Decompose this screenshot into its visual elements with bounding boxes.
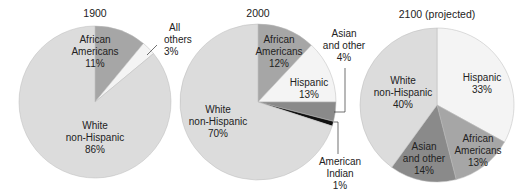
slice-label: All: [169, 22, 180, 33]
pie-charts: 1900 African Americans 11% All others 3%…: [0, 0, 530, 196]
slice-value: 1%: [333, 180, 348, 191]
slice-label: Americans: [454, 145, 501, 156]
pie-title: 1900: [83, 7, 107, 19]
slice-label: White: [390, 75, 416, 86]
slice-label: Asian: [331, 28, 356, 39]
slice-label: Americans: [255, 46, 302, 57]
slice-label: non-Hispanic: [189, 116, 247, 127]
slice-label: African: [79, 34, 110, 45]
slice-value: 11%: [85, 58, 104, 69]
slice-label: Indian: [326, 168, 353, 179]
slice-value: 13%: [299, 89, 319, 100]
slice-label: non-Hispanic: [374, 87, 432, 98]
slice-label: White: [205, 104, 231, 115]
slice-label: non-Hispanic: [66, 132, 124, 143]
slice-label: White: [82, 120, 108, 131]
slice-label: Asian: [411, 141, 436, 152]
slice-label: American: [319, 156, 361, 167]
slice-label: African: [462, 133, 493, 144]
slice-value: 13%: [468, 157, 488, 168]
slice-value: 12%: [269, 58, 289, 69]
slice-value: 70%: [208, 128, 228, 139]
pie-title: 2100 (projected): [399, 8, 475, 20]
slice-value: 86%: [85, 144, 105, 155]
slice-label: and other: [403, 153, 446, 164]
slice-label: Hispanic: [463, 72, 501, 83]
slice-value: 40%: [393, 99, 413, 110]
slice-label: Americans: [71, 46, 118, 57]
slice-label: and other: [323, 40, 366, 51]
pie-title: 2000: [246, 7, 270, 19]
slice-value: 14%: [414, 165, 434, 176]
slice-value: 3%: [164, 46, 179, 57]
slice-label: others: [164, 34, 192, 45]
slice-label: Hispanic: [290, 77, 328, 88]
slice-label: African: [263, 34, 294, 45]
slice-value: 4%: [337, 52, 352, 63]
slice-value: 33%: [472, 84, 492, 95]
